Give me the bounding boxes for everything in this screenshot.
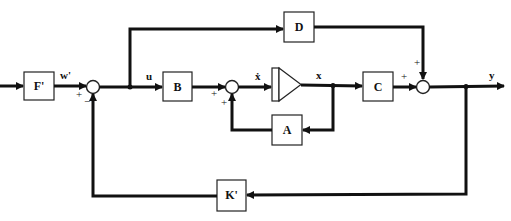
summing-junction-1 <box>87 81 100 94</box>
sum2-plus-sign-bottom: + <box>221 96 227 108</box>
block-k-label: K' <box>225 188 238 202</box>
block-diagram: F' w' + − u D B + + ẋ x A <box>0 0 511 221</box>
a-to-sum2-wire <box>232 94 272 130</box>
summing-junction-2 <box>226 81 239 94</box>
block-d-label: D <box>295 20 304 34</box>
block-a: A <box>272 115 302 145</box>
sum3-plus-sign-left: + <box>401 70 407 82</box>
block-d: D <box>284 12 314 42</box>
x-to-a-wire <box>303 86 333 130</box>
block-b: B <box>163 72 192 101</box>
block-k-prime: K' <box>217 180 246 211</box>
signal-x-label: x <box>316 69 322 81</box>
sum2-plus-sign-left: + <box>211 87 217 99</box>
block-c-label: C <box>374 80 383 94</box>
k-to-sum1-wire <box>93 94 217 196</box>
block-a-label: A <box>283 123 292 137</box>
block-f-prime: F' <box>24 72 54 100</box>
block-f-label: F' <box>34 79 45 93</box>
signal-xdot-label: ẋ <box>255 70 261 82</box>
summing-junction-3 <box>417 81 430 94</box>
integrator-block <box>272 68 301 101</box>
sum3-plus-sign-top: + <box>414 56 420 68</box>
sum1-plus-sign: + <box>76 88 82 100</box>
block-c: C <box>363 72 393 101</box>
sum1-minus-sign: − <box>84 95 90 107</box>
signal-y-label: y <box>489 69 495 81</box>
block-b-label: B <box>173 80 181 94</box>
signal-w-label: w' <box>60 69 71 81</box>
signal-u-label: u <box>146 70 152 82</box>
